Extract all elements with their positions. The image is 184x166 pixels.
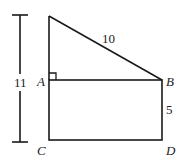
triangle-hypotenuse: [49, 16, 162, 80]
label-point-D: D: [165, 143, 176, 158]
label-point-B: B: [166, 74, 174, 89]
geometry-diagram: 11 A B C D 10 5: [0, 0, 184, 166]
label-side-5: 5: [166, 102, 173, 117]
label-point-C: C: [37, 143, 46, 158]
right-angle-marker: [49, 73, 56, 80]
rectangle-ABDC: [49, 80, 162, 140]
label-hypotenuse-10: 10: [102, 31, 115, 46]
label-height-11: 11: [14, 75, 27, 90]
label-point-A: A: [36, 74, 45, 89]
right-triangle: [49, 16, 162, 80]
